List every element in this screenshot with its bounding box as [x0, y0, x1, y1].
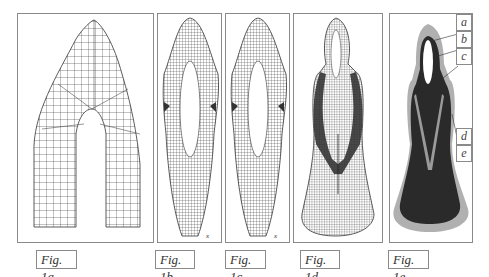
caption-fig-1b: Fig. 1b [155, 250, 195, 269]
figure-panel-1c: x [225, 13, 290, 243]
mesh-drawing-1a [18, 14, 155, 244]
mesh-drawing-1d [294, 14, 384, 244]
caption-fig-1d: Fig. 1d [300, 250, 340, 269]
region-label-e: e [456, 145, 472, 162]
x-axis-marker: x [273, 232, 278, 240]
mesh-drawing-1c: x [226, 14, 291, 244]
mesh-drawing-1b: x [158, 14, 223, 244]
caption-fig-1a: Fig. 1a [36, 250, 77, 269]
figure-panel-1b: x [157, 13, 222, 243]
figure-panel-1d [293, 13, 383, 243]
region-label-a: a [456, 14, 472, 31]
region-label-d: d [456, 128, 472, 145]
caption-fig-1c: Fig. 1c [225, 250, 266, 269]
figure-panel-1a [17, 13, 154, 243]
region-label-b: b [456, 31, 472, 48]
caption-fig-1e: Fig. 1e [388, 250, 429, 269]
region-label-c: c [456, 48, 472, 65]
x-axis-marker: x [205, 232, 210, 240]
